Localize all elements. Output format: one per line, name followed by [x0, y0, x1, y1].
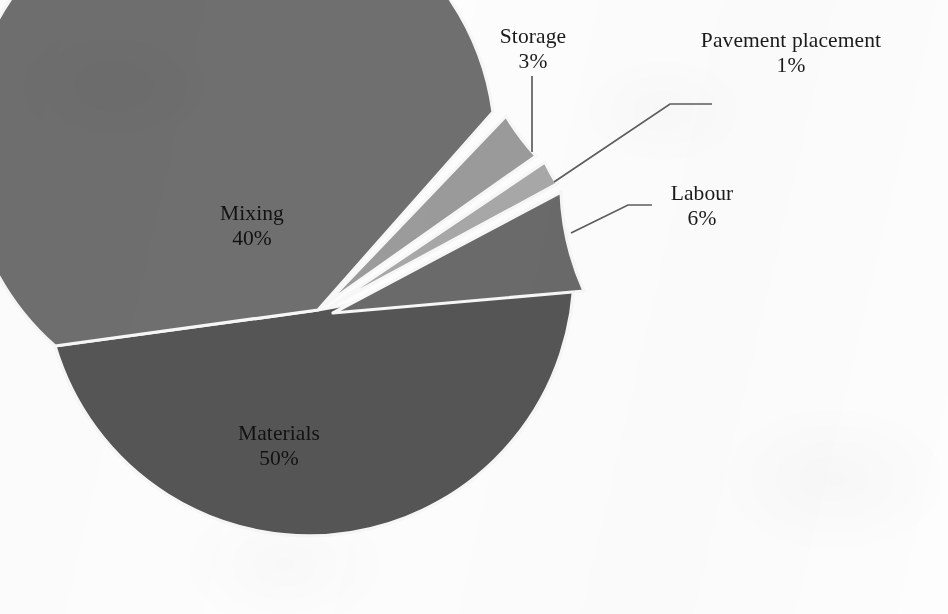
pie-chart-figure: Storage 3% Pavement placement 1% Labour … — [0, 0, 948, 614]
pie-label-labour-value: 6% — [640, 206, 764, 231]
pie-label-labour: Labour 6% — [640, 181, 764, 231]
pie-chart-canvas — [0, 0, 948, 614]
leader-line-pavement-placement — [554, 104, 712, 182]
pie-label-pavement-placement-name: Pavement placement — [662, 28, 920, 53]
pie-label-storage: Storage 3% — [440, 24, 626, 74]
pie-label-pavement-placement: Pavement placement 1% — [662, 28, 920, 78]
pie-label-mixing: Mixing 40% — [177, 201, 327, 251]
pie-label-pavement-placement-value: 1% — [662, 53, 920, 78]
pie-label-storage-value: 3% — [440, 49, 626, 74]
pie-label-materials-name: Materials — [195, 421, 363, 446]
pie-label-materials: Materials 50% — [195, 421, 363, 471]
pie-label-materials-value: 50% — [195, 446, 363, 471]
pie-label-mixing-value: 40% — [177, 226, 327, 251]
pie-label-mixing-name: Mixing — [177, 201, 327, 226]
pie-label-storage-name: Storage — [440, 24, 626, 49]
pie-label-labour-name: Labour — [640, 181, 764, 206]
